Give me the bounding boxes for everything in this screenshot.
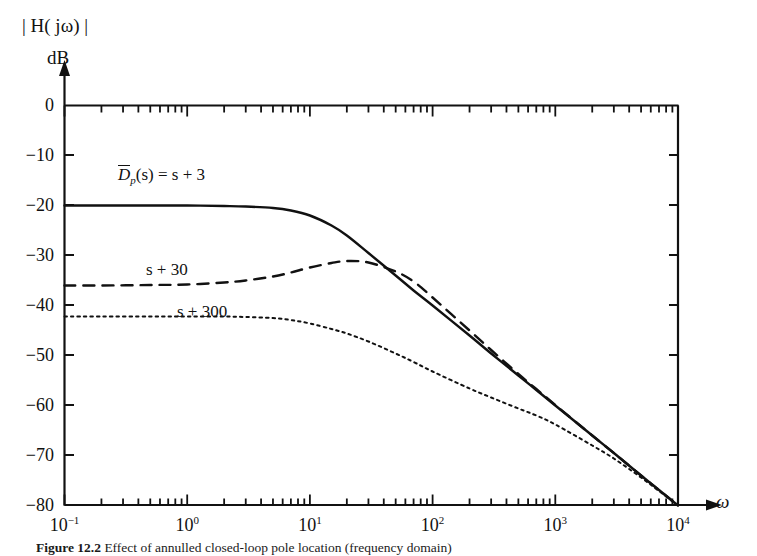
y-tick-label: 0: [2, 96, 54, 114]
x-tick-label: 102: [398, 516, 468, 534]
y-tick-label: −60: [2, 396, 54, 414]
x-tick-label: 10−1: [30, 516, 100, 534]
curve-label-s-plus-300: s + 300: [177, 303, 227, 320]
curve-label-dp-expression: (s) = s + 3: [136, 165, 205, 184]
y-tick-label: −80: [2, 496, 54, 514]
x-tick-label: 104: [643, 516, 713, 534]
figure-number: Figure 12.2: [36, 540, 101, 555]
x-tick-label: 101: [275, 516, 345, 534]
figure-caption-text: Effect of annulled closed-loop pole loca…: [104, 540, 451, 555]
y-tick-label: −20: [2, 196, 54, 214]
x-axis-title-omega: ω: [716, 492, 729, 511]
curves-group: [65, 205, 679, 505]
x-axis-ticks: [65, 495, 679, 506]
right-border-ticks: [669, 155, 678, 455]
y-tick-label: −40: [2, 296, 54, 314]
curve-label-dp-symbol: D: [118, 165, 130, 183]
x-tick-label: 100: [152, 516, 222, 534]
y-tick-label: −30: [2, 246, 54, 264]
x-axis-top-ticks: [65, 106, 679, 117]
y-tick-label: −50: [2, 346, 54, 364]
curve-s-plus-300: [65, 316, 679, 505]
bode-magnitude-plot: [0, 0, 757, 556]
curve-label-s-plus-30: s + 30: [146, 261, 188, 278]
figure-container: | H( jω) | dB ω 0−10−20−30−40−50−60−70−8…: [0, 0, 757, 556]
curve-label-s-plus-3: Dp(s) = s + 3: [118, 165, 205, 183]
y-tick-label: −70: [2, 446, 54, 464]
y-axis-title-magnitude: | H( jω) |: [22, 16, 88, 35]
y-axis-ticks: [65, 155, 75, 455]
y-axis-title-units: dB: [47, 48, 69, 67]
plot-frame: [65, 70, 713, 506]
curve-s-plus-30: [65, 261, 679, 506]
curve-s-plus-3: [65, 205, 679, 505]
x-tick-label: 103: [520, 516, 590, 534]
figure-caption: Figure 12.2 Effect of annulled closed-lo…: [36, 540, 746, 556]
y-tick-label: −10: [2, 146, 54, 164]
